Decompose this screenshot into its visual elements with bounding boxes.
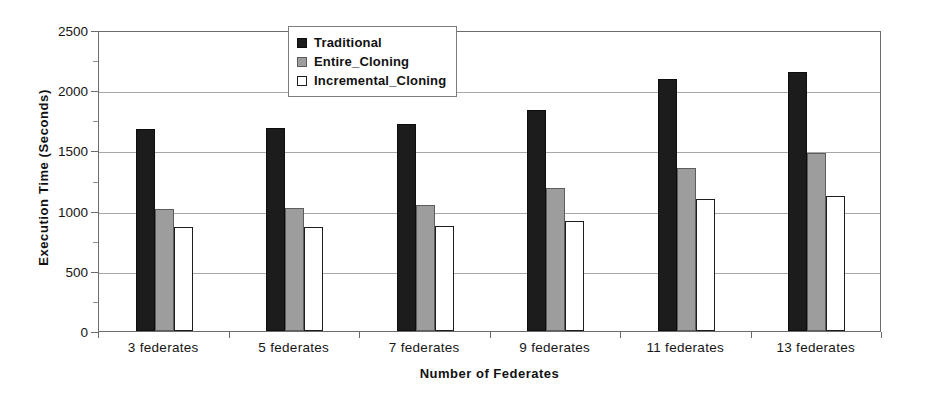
bar-chart: Execution Time (Seconds) 050010001500200… [0, 0, 925, 405]
bar [546, 188, 565, 331]
x-tick-mark [359, 332, 360, 338]
y-minor-tick-mark [93, 242, 98, 243]
x-axis-title: Number of Federates [98, 366, 881, 381]
bar [397, 124, 416, 331]
bar [155, 209, 174, 331]
x-tick-mark [98, 332, 99, 338]
bar [565, 221, 584, 331]
y-minor-tick-mark [93, 302, 98, 303]
bar [826, 196, 845, 331]
bar [435, 226, 454, 331]
x-tick-mark [490, 332, 491, 338]
bar [807, 153, 826, 331]
bar [677, 168, 696, 331]
y-tick-mark [91, 272, 98, 273]
y-tick-mark [91, 91, 98, 92]
legend-label: Incremental_Cloning [314, 73, 446, 88]
legend-label: Traditional [314, 35, 382, 50]
plot-area [98, 31, 881, 332]
bar [658, 79, 677, 331]
y-tick-label: 0 [28, 325, 88, 340]
x-axis-tick-labels: 3 federates5 federates7 federates9 feder… [98, 340, 881, 364]
x-tick-label: 11 federates [646, 340, 724, 355]
x-tick-label: 5 federates [258, 340, 329, 355]
bars-layer [99, 32, 880, 331]
y-tick-label: 500 [28, 264, 88, 279]
chart-legend: TraditionalEntire_CloningIncremental_Clo… [288, 26, 457, 97]
legend-swatch-icon [297, 38, 307, 48]
y-tick-mark [91, 332, 98, 333]
bar [696, 199, 715, 331]
legend-item: Entire_Cloning [297, 52, 446, 71]
y-tick-mark [91, 212, 98, 213]
bar [266, 128, 285, 331]
y-minor-tick-mark [93, 61, 98, 62]
y-tick-label: 1500 [28, 144, 88, 159]
bar [788, 72, 807, 331]
legend-swatch-icon [297, 76, 307, 86]
x-tick-label: 7 federates [389, 340, 460, 355]
legend-item: Incremental_Cloning [297, 71, 446, 90]
bar [527, 110, 546, 331]
y-tick-mark [91, 31, 98, 32]
x-tick-label: 13 federates [776, 340, 855, 355]
bar [304, 227, 323, 331]
bar [174, 227, 193, 331]
y-tick-label: 2500 [28, 24, 88, 39]
bar [285, 208, 304, 331]
x-tick-mark [881, 332, 882, 338]
y-tick-mark [91, 151, 98, 152]
x-tick-mark [751, 332, 752, 338]
x-tick-label: 9 federates [519, 340, 590, 355]
y-minor-tick-mark [93, 182, 98, 183]
legend-item: Traditional [297, 33, 446, 52]
x-tick-mark [229, 332, 230, 338]
y-tick-label: 2000 [28, 84, 88, 99]
y-axis-tick-labels: 05001000150020002500 [28, 0, 88, 405]
legend-swatch-icon [297, 57, 307, 67]
y-tick-label: 1000 [28, 204, 88, 219]
bar [416, 205, 435, 331]
bar [136, 129, 155, 331]
legend-label: Entire_Cloning [314, 54, 409, 69]
y-minor-tick-mark [93, 121, 98, 122]
x-tick-label: 3 federates [128, 340, 199, 355]
x-tick-mark [620, 332, 621, 338]
